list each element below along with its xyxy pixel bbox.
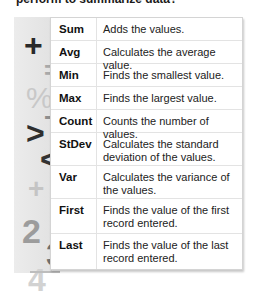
- function-name: First: [51, 199, 97, 233]
- digit-two-icon: 2: [22, 214, 41, 248]
- function-name: Count: [51, 110, 97, 132]
- function-description: Finds the smallest value.: [97, 64, 242, 86]
- question-heading-fragment: perform to summarize data?: [16, 0, 177, 6]
- function-name: Max: [51, 87, 97, 109]
- function-description: Finds the value of the first record ente…: [97, 199, 242, 233]
- function-description: Calculates the standard deviation of the…: [97, 133, 242, 165]
- function-name: Min: [51, 64, 97, 86]
- function-name: Avg: [51, 41, 97, 63]
- table-row: Avg Calculates the average value.: [51, 41, 242, 64]
- function-name: StDev: [51, 133, 97, 165]
- table-row: Var Calculates the variance of the value…: [51, 166, 242, 199]
- math-symbols-strip: + = % − > < + - 2 3 4: [14, 17, 52, 273]
- table-row: Last Finds the value of the last record …: [51, 234, 242, 269]
- table-row: Sum Adds the values.: [51, 18, 242, 41]
- function-description: Calculates the variance of the values.: [97, 166, 242, 198]
- function-name: Var: [51, 166, 97, 198]
- table-row: StDev Calculates the standard deviation …: [51, 133, 242, 166]
- plus-light-symbol-icon: +: [28, 175, 44, 203]
- table-row: Min Finds the smallest value.: [51, 64, 242, 87]
- table-row: Max Finds the largest value.: [51, 87, 242, 110]
- table-row: First Finds the value of the first recor…: [51, 199, 242, 234]
- function-description: Finds the largest value.: [97, 87, 242, 109]
- table-row: Count Counts the number of values.: [51, 110, 242, 133]
- plus-symbol-icon: +: [24, 29, 43, 61]
- function-description: Calculates the average value.: [97, 41, 242, 63]
- digit-four-icon: 4: [28, 264, 46, 295]
- strip-baseline: [30, 271, 60, 273]
- function-name: Last: [51, 234, 97, 269]
- function-description: Finds the value of the last record enter…: [97, 234, 242, 269]
- aggregate-functions-table: Sum Adds the values. Avg Calculates the …: [50, 17, 243, 270]
- function-description: Counts the number of values.: [97, 110, 242, 132]
- function-description: Adds the values.: [97, 18, 242, 40]
- function-name: Sum: [51, 18, 97, 40]
